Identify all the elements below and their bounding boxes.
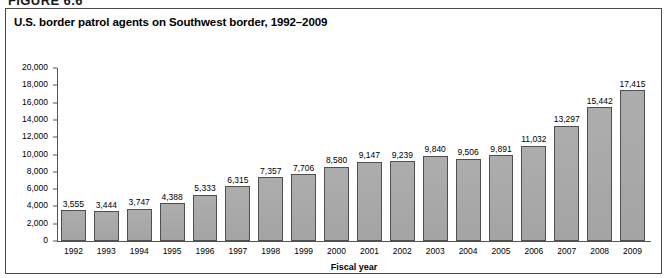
- bar-value-label: 9,239: [392, 151, 413, 160]
- y-tick-label: 14,000: [22, 114, 48, 124]
- y-tick-label: 4,000: [27, 200, 48, 210]
- bar-value-label: 7,357: [260, 167, 281, 176]
- figure-number-label: FIGURE 6.6: [8, 0, 83, 8]
- bar-group: 3,444: [94, 68, 119, 241]
- bar-value-label: 6,315: [227, 176, 248, 185]
- x-tick-label: 1992: [57, 246, 90, 256]
- bar: [258, 177, 283, 241]
- bar: [587, 107, 612, 241]
- bar: [127, 209, 152, 241]
- bar-value-label: 9,840: [425, 145, 446, 154]
- bar-group: 5,333: [193, 68, 218, 241]
- bar-value-label: 8,580: [326, 156, 347, 165]
- bar-group: 4,388: [160, 68, 185, 241]
- bar-group: 6,315: [225, 68, 250, 241]
- bar-value-label: 3,747: [129, 198, 150, 207]
- bar: [521, 146, 546, 241]
- bar: [324, 167, 349, 241]
- x-tick-label: 1997: [221, 246, 254, 256]
- bar-group: 15,442: [587, 68, 612, 241]
- y-tick-label: 16,000: [22, 97, 48, 107]
- bar-value-label: 9,891: [490, 145, 511, 154]
- bar-group: 3,555: [61, 68, 86, 241]
- x-tick-label: 1999: [287, 246, 320, 256]
- y-tick-label: 10,000: [22, 149, 48, 159]
- bar: [456, 159, 481, 241]
- bar-value-label: 11,032: [521, 135, 546, 144]
- bar-group: 8,580: [324, 68, 349, 241]
- bar-value-label: 7,706: [293, 164, 314, 173]
- bar: [357, 162, 382, 241]
- bar: [620, 90, 645, 241]
- bar: [554, 126, 579, 241]
- figure-container: FIGURE 6.6 U.S. border patrol agents on …: [0, 0, 669, 278]
- bar-group: 13,297: [554, 68, 579, 241]
- bar-value-label: 9,147: [359, 151, 380, 160]
- y-tick-label: 18,000: [22, 79, 48, 89]
- bar-group: 9,506: [456, 68, 481, 241]
- y-tick-label: 12,000: [22, 131, 48, 141]
- bar-group: 9,239: [390, 68, 415, 241]
- bar: [193, 195, 218, 241]
- bar: [94, 211, 119, 241]
- bar: [225, 186, 250, 241]
- x-tick-label: 2002: [386, 246, 419, 256]
- bar: [423, 156, 448, 241]
- bar-value-label: 13,297: [554, 115, 580, 124]
- x-tick-label: 2000: [320, 246, 353, 256]
- x-tick-label: 2003: [419, 246, 452, 256]
- bar-value-label: 3,555: [63, 200, 84, 209]
- bar: [160, 203, 185, 241]
- x-tick-label: 1995: [156, 246, 189, 256]
- y-tick-label: 2,000: [27, 218, 48, 228]
- bar-group: 7,706: [291, 68, 316, 241]
- bar-group: 9,840: [423, 68, 448, 241]
- x-tick-label: 1994: [123, 246, 156, 256]
- x-tick-label: 2007: [550, 246, 583, 256]
- y-tick-label: 20,000: [22, 62, 48, 72]
- bar-value-label: 17,415: [620, 80, 646, 89]
- bar: [61, 210, 86, 241]
- y-tick-label: 6,000: [27, 183, 48, 193]
- plot-area: 3,5553,4443,7474,3885,3336,3157,3577,706…: [57, 68, 649, 241]
- x-tick-label: 1993: [90, 246, 123, 256]
- x-tick-label: 2008: [583, 246, 616, 256]
- bar: [489, 155, 514, 241]
- x-axis-line: [57, 241, 651, 242]
- x-tick-label: 1998: [254, 246, 287, 256]
- bar: [291, 174, 316, 241]
- bar-group: 9,147: [357, 68, 382, 241]
- bar-value-label: 3,444: [96, 201, 117, 210]
- bar-group: 3,747: [127, 68, 152, 241]
- bar-group: 17,415: [620, 68, 645, 241]
- bar-value-label: 9,506: [457, 148, 478, 157]
- bar-value-label: 4,388: [161, 193, 182, 202]
- x-tick-label: 2004: [452, 246, 485, 256]
- bar: [390, 161, 415, 241]
- bar-group: 7,357: [258, 68, 283, 241]
- x-tick-label: 2009: [616, 246, 649, 256]
- bar-group: 11,032: [521, 68, 546, 241]
- chart-title: U.S. border patrol agents on Southwest b…: [14, 16, 327, 28]
- x-tick-label: 1996: [189, 246, 222, 256]
- x-tick-label: 2001: [353, 246, 386, 256]
- x-tick-label: 2005: [485, 246, 518, 256]
- bar-value-label: 5,333: [194, 184, 215, 193]
- y-tick-label: 0: [43, 235, 48, 245]
- bar-group: 9,891: [489, 68, 514, 241]
- x-tick-label: 2006: [517, 246, 550, 256]
- bar-value-label: 15,442: [587, 97, 613, 106]
- x-axis-title: Fiscal year: [57, 262, 651, 272]
- y-tick-label: 8,000: [27, 166, 48, 176]
